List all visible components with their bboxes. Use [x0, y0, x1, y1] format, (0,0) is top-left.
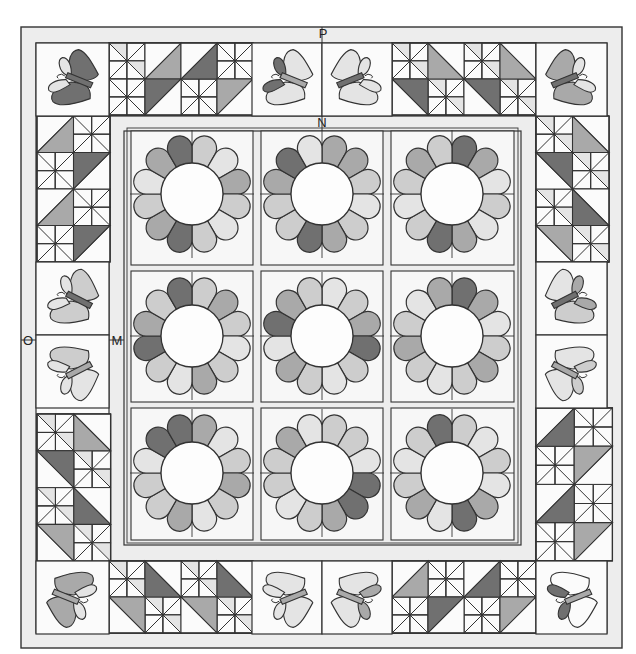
butterfly-block-bottom-left	[36, 561, 109, 634]
dresden-plate-4	[134, 278, 251, 394]
label-n: N	[317, 115, 326, 130]
butterfly-block-top-left	[36, 43, 109, 116]
dresden-plate-5	[264, 278, 381, 395]
plate-center	[291, 305, 353, 367]
pieced-block-right-lower-pieced	[536, 408, 612, 561]
butterfly-block-top-right	[536, 43, 607, 116]
dresden-plate-6	[394, 278, 511, 395]
pieced-block-left-lower-pieced	[37, 414, 111, 561]
pieced-block-top-left-pieced	[109, 43, 253, 115]
pieced-block-right-upper-pieced	[536, 116, 609, 262]
plate-center	[161, 305, 223, 367]
dresden-plate-1	[134, 136, 251, 252]
dresden-plate-9	[394, 415, 511, 532]
dresden-plate-7	[134, 415, 251, 531]
dresden-plate-blocks	[134, 136, 511, 532]
butterfly-block-bottom-center-right	[322, 561, 392, 634]
butterfly-block-bottom-right	[536, 561, 607, 634]
dresden-plate-2	[264, 136, 381, 253]
butterfly-block-left-upper	[36, 262, 109, 335]
pieced-block-bottom-left-pieced	[109, 561, 253, 633]
quilt-diagram: P N O M	[0, 0, 636, 654]
butterfly-block-bottom-center-left	[252, 561, 322, 634]
plate-center	[161, 442, 223, 504]
label-p: P	[319, 26, 328, 41]
plate-center	[291, 442, 353, 504]
plate-center	[421, 305, 483, 367]
butterfly-block-right-upper	[536, 262, 607, 335]
plate-center	[421, 163, 483, 225]
butterfly-block-top-center-right	[322, 43, 392, 116]
butterfly-block-top-center-left	[252, 43, 322, 116]
dresden-plate-3	[394, 136, 511, 253]
plate-center	[161, 163, 223, 225]
plate-center	[291, 163, 353, 225]
butterfly-block-right-lower	[536, 335, 607, 408]
pieced-block-top-right-pieced	[392, 43, 536, 115]
butterfly-block-left-lower	[36, 335, 109, 408]
pieced-block-left-upper-pieced	[37, 116, 110, 262]
pieced-block-bottom-right-pieced	[392, 561, 536, 633]
label-m: M	[112, 333, 123, 348]
dresden-plate-8	[264, 415, 381, 532]
label-o: O	[23, 333, 33, 348]
plate-center	[421, 442, 483, 504]
